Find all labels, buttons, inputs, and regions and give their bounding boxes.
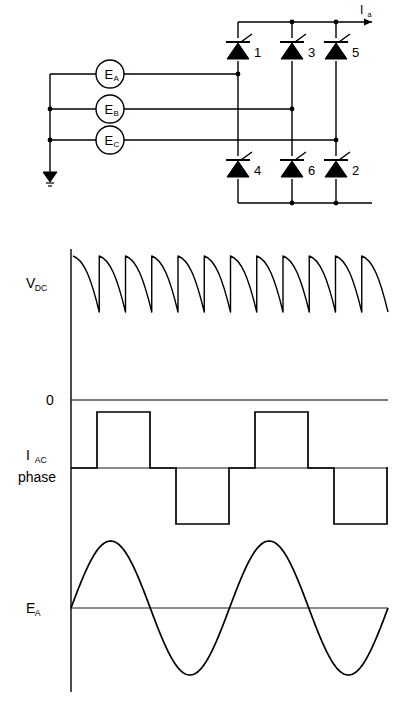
gate-lead [339, 34, 350, 42]
neutral-node-c [48, 138, 53, 143]
source-label: E [105, 133, 114, 148]
thyristor-number: 6 [308, 163, 315, 178]
gate-lead [241, 152, 252, 160]
thyristor-3[interactable]: 3 [280, 34, 315, 60]
technical-diagram: Ia135462EAEBECVDC0IACphaseEA [0, 0, 407, 704]
gate-lead [241, 34, 252, 42]
phase-node-b [290, 107, 295, 112]
source-label: E [105, 102, 114, 117]
thyristor-6[interactable]: 6 [280, 152, 315, 178]
dc-bus-node-top-2 [290, 20, 295, 25]
source-c: EC [96, 126, 124, 154]
ground-symbol [43, 172, 57, 186]
thyristor-2[interactable]: 2 [324, 152, 359, 178]
neutral-node-b [48, 107, 53, 112]
iac-phase-label: phase [18, 469, 56, 485]
ea-label: EA [26, 600, 41, 618]
ground-triangle [43, 172, 57, 182]
figure-root: Ia135462EAEBECVDC0IACphaseEA [0, 0, 407, 704]
vdc-label-sub: DC [35, 283, 48, 293]
thyristor-number: 5 [352, 45, 359, 60]
vdc-label: VDC [26, 275, 47, 293]
output-current-label-sub: a [367, 10, 372, 19]
source-sublabel: C [114, 140, 120, 149]
thyristor-triangle [281, 161, 303, 177]
zero-label: 0 [46, 392, 54, 408]
source-a: EA [96, 60, 124, 88]
thyristor-5[interactable]: 5 [324, 34, 359, 60]
phase-node-a [236, 72, 241, 77]
source-label: E [105, 67, 114, 82]
thyristor-number: 4 [254, 163, 261, 178]
dc-bus-node-bot-2 [290, 201, 295, 206]
source-sublabel: A [114, 74, 120, 83]
thyristor-triangle [325, 43, 347, 59]
thyristor-triangle [325, 161, 347, 177]
circuit-schematic: Ia135462EAEBEC [43, 3, 372, 205]
dc-bus-node-bot-3 [334, 201, 339, 206]
phase-node-c [334, 138, 339, 143]
gate-lead [295, 34, 306, 42]
thyristor-4[interactable]: 4 [226, 152, 261, 178]
iac-label-sub: AC [35, 455, 47, 465]
dc-bus-node-top-3 [334, 20, 339, 25]
source-b: EB [96, 95, 124, 123]
thyristor-triangle [281, 43, 303, 59]
thyristor-number: 3 [308, 45, 315, 60]
output-current-label: Ia [360, 3, 372, 19]
output-current-label-main: I [360, 3, 363, 17]
source-sublabel: B [114, 109, 119, 118]
thyristor-number: 1 [254, 45, 261, 60]
gate-lead [339, 152, 350, 160]
output-current-arrow [364, 19, 372, 26]
ea-label-sub: A [35, 608, 41, 618]
iac-label: IAC [26, 447, 47, 465]
vdc-waveform [73, 256, 388, 312]
iac-label-main: I [26, 447, 30, 463]
thyristor-triangle [227, 43, 249, 59]
thyristor-1[interactable]: 1 [226, 34, 261, 60]
thyristor-triangle [227, 161, 249, 177]
waveform-panel: VDC0IACphaseEA [18, 249, 388, 692]
gate-lead [295, 152, 306, 160]
thyristor-number: 2 [352, 163, 359, 178]
arrow-head [364, 19, 372, 26]
